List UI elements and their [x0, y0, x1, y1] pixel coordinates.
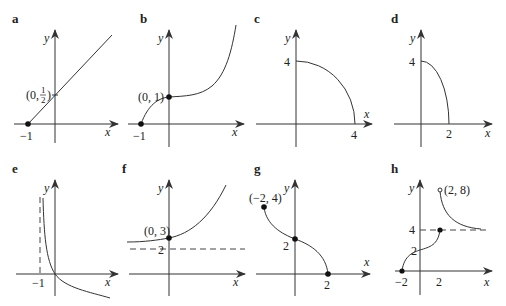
- panel-a: a x y −1 (0, 1 2 ): [12, 11, 118, 143]
- open-point-marker-icon: [438, 188, 442, 192]
- tick-label-y4: 4: [284, 55, 290, 69]
- point-marker-icon: [25, 121, 31, 127]
- x-axis-label: x: [484, 126, 491, 140]
- point-label: (2, 8): [444, 183, 470, 197]
- panel-label-g: g: [254, 161, 261, 176]
- x-axis-label: x: [231, 125, 238, 139]
- y-axis-label: y: [409, 31, 416, 45]
- y-axis-label: y: [283, 181, 290, 195]
- point-label: (0, 1): [138, 90, 164, 104]
- panel-label-d: d: [391, 11, 399, 26]
- log-curve: [43, 198, 110, 298]
- panel-b: b x y −1 (0, 1): [128, 11, 244, 147]
- tick-label-minus1: −1: [20, 129, 33, 143]
- line-curve: [28, 35, 112, 124]
- exponential-curve: [127, 185, 226, 242]
- point-marker-icon: [292, 236, 298, 242]
- quarter-ellipse-curve: [421, 61, 449, 124]
- point-marker-icon: [399, 268, 404, 273]
- panel-e: e x y −1: [12, 161, 118, 298]
- x-axis-label: x: [483, 275, 490, 289]
- point-marker-icon: [261, 204, 267, 210]
- tick-label-minus2: −2: [395, 275, 408, 289]
- x-axis-label: x: [363, 107, 370, 121]
- point-marker-icon: [166, 94, 172, 100]
- panel-label-c: c: [254, 11, 260, 26]
- x-axis-label: x: [363, 255, 370, 269]
- fraction-numerator: 1: [41, 85, 46, 95]
- tick-label-y2: 2: [411, 244, 417, 258]
- tick-label-y2: 2: [158, 243, 164, 257]
- tick-label-x2: 2: [324, 278, 330, 292]
- x-axis-label: x: [232, 275, 239, 289]
- point-label: (−2, 4): [249, 191, 282, 205]
- y-axis-label: y: [157, 31, 164, 45]
- tick-label-y2: 2: [283, 239, 289, 253]
- panel-label-a: a: [12, 11, 19, 26]
- increasing-piece-curve: [402, 230, 440, 271]
- point-marker-icon: [325, 271, 331, 277]
- x-axis-label: x: [104, 125, 111, 139]
- tick-label-x4: 4: [351, 128, 357, 142]
- fraction-denominator: 2: [41, 95, 46, 105]
- tick-label-y4: 4: [409, 223, 415, 237]
- quarter-circle-curve: [296, 61, 355, 124]
- tick-label-minus1: −1: [133, 129, 146, 143]
- y-axis-label: y: [43, 181, 50, 195]
- point-label-close: ): [47, 88, 51, 102]
- cubic-curve: [141, 25, 236, 124]
- point-label-open: (0,: [26, 88, 39, 102]
- panel-label-b: b: [140, 11, 147, 26]
- panel-h: h x y (2, 8) 4 2 −2 2: [391, 161, 492, 295]
- point-marker-icon: [138, 121, 144, 127]
- panel-c: c x y 4 4: [254, 11, 372, 147]
- y-axis-label: y: [43, 31, 50, 45]
- panel-f: f x y (0, 3) 2: [122, 161, 245, 296]
- panel-label-f: f: [122, 161, 127, 176]
- panel-label-h: h: [391, 161, 399, 176]
- panel-g: g x y (−2, 4) 2 2: [249, 161, 370, 296]
- y-axis-label: y: [157, 181, 164, 195]
- graph-grid: a x y −1 (0, 1 2 ) b x y −1 (0, 1) c x y…: [0, 0, 506, 306]
- panel-label-e: e: [12, 161, 18, 176]
- tick-label-x2: 2: [446, 127, 452, 141]
- point-label: (0, 3): [144, 224, 170, 238]
- y-axis-label: y: [284, 31, 291, 45]
- point-marker-icon: [437, 227, 442, 232]
- y-axis-label: y: [408, 181, 415, 195]
- panel-d: d x y 4 2: [391, 11, 492, 147]
- tick-label-x2: 2: [436, 275, 442, 289]
- tick-label-minus1: −1: [32, 276, 45, 290]
- x-axis-label: x: [104, 275, 111, 289]
- tick-label-y4: 4: [409, 55, 415, 69]
